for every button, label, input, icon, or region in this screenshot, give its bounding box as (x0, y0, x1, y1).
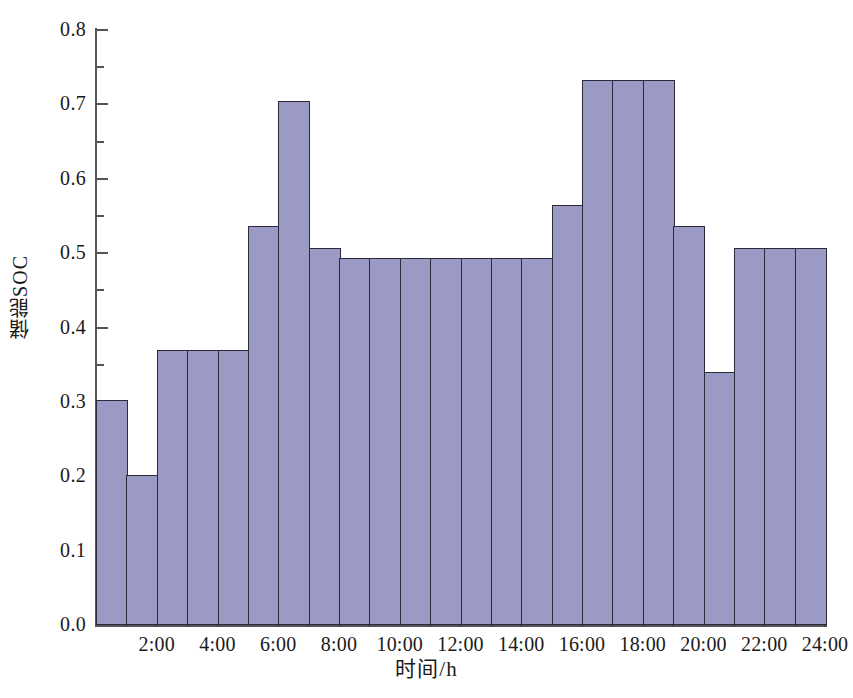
bar (734, 248, 766, 625)
bar (643, 80, 675, 625)
y-tick-minor (97, 289, 104, 291)
bar (157, 350, 189, 625)
y-tick-label: 0.7 (0, 93, 86, 113)
bar (673, 226, 705, 625)
chart-figure: 储能SOC 0.00.10.20.30.40.50.60.70.8 2:004:… (0, 0, 853, 698)
bar (795, 248, 827, 625)
bar (339, 258, 371, 625)
bar (248, 226, 280, 625)
bar (612, 80, 644, 625)
bar (521, 258, 553, 625)
y-tick-minor (97, 364, 104, 366)
bar (461, 258, 493, 625)
y-tick-label: 0.6 (0, 168, 86, 188)
x-tick-label: 24:00 (775, 633, 853, 655)
bar (491, 258, 523, 625)
y-tick-major (97, 29, 108, 31)
y-tick-label: 0.4 (0, 317, 86, 337)
caption-sliver (0, 690, 853, 698)
y-tick-major (97, 327, 108, 329)
y-tick-minor (97, 141, 104, 143)
y-tick-label: 0.5 (0, 242, 86, 262)
y-tick-major (97, 252, 108, 254)
y-tick-minor (97, 66, 104, 68)
y-tick-label: 0.1 (0, 540, 86, 560)
bar (187, 350, 219, 625)
bar (126, 475, 158, 625)
y-tick-major (97, 178, 108, 180)
bar (764, 248, 796, 625)
y-tick-label: 0.2 (0, 465, 86, 485)
x-axis-title: 时间/h (0, 657, 853, 681)
bar (704, 372, 736, 625)
y-tick-label: 0.0 (0, 614, 86, 634)
y-tick-label: 0.3 (0, 391, 86, 411)
y-tick-major (97, 103, 108, 105)
bar (369, 258, 401, 625)
bar (552, 205, 584, 625)
bar (309, 248, 341, 625)
y-tick-minor (97, 215, 104, 217)
y-tick-label: 0.8 (0, 19, 86, 39)
bar (400, 258, 432, 625)
bar (278, 101, 310, 625)
bar (582, 80, 614, 625)
bar (218, 350, 250, 625)
bar (96, 400, 128, 625)
bar (430, 258, 462, 625)
